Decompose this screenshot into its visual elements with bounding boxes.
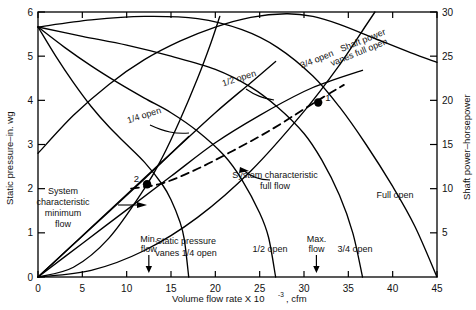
y-left-tick-label: 3	[27, 139, 33, 150]
y-right-tick-label: 10	[442, 183, 454, 194]
x-axis-title: Volume flow rate X 10 -3 , cfm	[172, 291, 307, 304]
annotation-full-open-sp: Full open	[376, 190, 413, 200]
y-right-tick-label: 30	[442, 7, 454, 18]
plot-frame	[38, 12, 437, 277]
y-axis-right-title: Shaft power–horsepower	[461, 94, 472, 200]
annotation-system-characteristic-full-flow-l1: System characteristic	[232, 170, 318, 180]
flow-marker-arrowhead	[313, 266, 319, 273]
operating-point-marker	[143, 180, 151, 188]
annotation-vanes-half-open-sp: 1/2 open	[221, 68, 257, 88]
y-axis-left-ticks: 0123456	[27, 7, 45, 283]
x-tick-label: 5	[80, 283, 86, 294]
fan-performance-chart: 051015202530354045 0123456 51015202530 M…	[0, 0, 476, 310]
y-right-tick-label: 20	[442, 95, 454, 106]
x-tick-label: 0	[35, 283, 41, 294]
curve	[38, 16, 437, 277]
flow-marker-label-line1: Max.	[307, 234, 327, 244]
y-left-tick-label: 5	[27, 51, 33, 62]
leader-lines	[118, 89, 274, 208]
operating-point-label: 1	[325, 92, 330, 103]
leader-quarter-open	[150, 125, 189, 133]
annotation-system-characteristic-minimum-flow-l4: flow	[55, 219, 72, 229]
y-right-tick-label: 5	[442, 227, 448, 238]
annotation-half-open-power: 1/2 open	[252, 244, 287, 254]
annotation-system-characteristic-minimum-flow-l3: minimum	[45, 208, 82, 218]
annotation-vanes-quarter-open-sp: 1/4 open	[126, 105, 162, 125]
x-axis-title-unit: , cfm	[286, 293, 307, 304]
operating-point-marker	[314, 98, 322, 106]
flow-marker-label-line2: flow	[308, 244, 325, 254]
y-left-tick-label: 4	[27, 95, 33, 106]
operating-point-label: 2	[134, 173, 139, 184]
x-tick-label: 45	[431, 283, 443, 294]
flow-marker-label-line1: Min.	[140, 234, 157, 244]
annotation-group: 1/4 open1/2 open3/4 openShaft powervanes…	[36, 27, 413, 258]
x-tick-label: 35	[343, 283, 355, 294]
y-right-tick-label: 15	[442, 139, 454, 150]
annotation-static-pressure-vanes-quarter-l2: vanes 1/4 open	[155, 248, 217, 258]
annotation-three-quarter-open-power: 3/4 open	[337, 244, 372, 254]
x-tick-label: 40	[387, 283, 399, 294]
leader-half-open	[246, 89, 274, 100]
x-axis-title-text: Volume flow rate X 10	[172, 293, 264, 304]
curve-group	[38, 12, 437, 277]
x-axis-ticks: 051015202530354045	[35, 12, 443, 294]
annotation-system-characteristic-minimum-flow-l2: characteristic	[36, 197, 90, 207]
y-axis-left-title: Static pressure–in. wg	[4, 112, 15, 205]
flow-marker-arrowhead	[146, 266, 152, 273]
x-tick-label: 10	[121, 283, 133, 294]
y-right-tick-label: 25	[442, 51, 454, 62]
y-left-tick-label: 1	[27, 227, 33, 238]
x-axis-title-exponent: -3	[278, 291, 284, 298]
annotation-system-characteristic-minimum-flow-l1: System	[48, 186, 78, 196]
y-left-tick-label: 2	[27, 183, 33, 194]
y-axis-right-ticks: 51015202530	[430, 7, 454, 239]
y-left-tick-label: 0	[27, 272, 33, 283]
leader-arrowhead-min-flow	[137, 202, 147, 208]
annotation-static-pressure-vanes-quarter-l1: Static pressure	[156, 236, 216, 246]
annotation-system-characteristic-full-flow-l2: full flow	[260, 181, 291, 191]
chart-figure: 051015202530354045 0123456 51015202530 M…	[0, 0, 476, 310]
y-left-tick-label: 6	[27, 7, 33, 18]
